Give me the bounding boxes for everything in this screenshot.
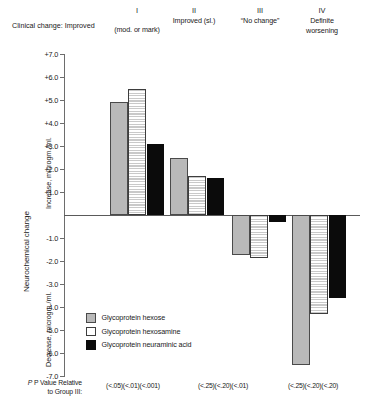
pvalue-cell-iv: (<.25)(<.20)(<.20): [266, 382, 360, 389]
y-tick-mark: [60, 146, 66, 147]
bar-group-ii-hexosamine: [188, 176, 206, 215]
y-tick-mark: [60, 353, 66, 354]
bar-group-i-neuraminic: [147, 144, 165, 215]
legend-swatch-hexosamine-icon: [86, 327, 96, 337]
y-tick-label: -2.0: [46, 257, 58, 266]
y-tick-label: +2.0: [44, 165, 58, 174]
bar-group-iii-hexosamine: [250, 215, 268, 258]
y-tick-mark: [60, 54, 66, 55]
y-tick-label: -1.0: [46, 234, 58, 243]
pvalue-title-line2: to Group III:: [8, 388, 82, 397]
y-tick-label: -6.0: [46, 349, 58, 358]
pvalue-cell-i: (<.05)(<.01)(<.001): [86, 382, 180, 389]
legend-label-hexosamine: Glycoprotein hexosamine: [102, 327, 181, 336]
legend-label-hexose: Glycoprotein hexose: [102, 313, 166, 322]
bar-group-ii-hexose: [170, 158, 188, 216]
y-tick-mark: [60, 77, 66, 78]
group-roman-iv: IV: [282, 6, 362, 16]
bar-group-i-hexosamine: [128, 89, 146, 216]
y-tick-label: +6.0: [44, 73, 58, 82]
y-tick-mark: [60, 123, 66, 124]
group-header-iv: IV Definite worsening: [282, 6, 362, 35]
group-label-iv-line2: worsening: [282, 26, 362, 35]
y-tick-label: +1.0: [44, 188, 58, 197]
y-tick-mark: [60, 284, 66, 285]
legend-item-hexosamine: Glycoprotein hexosamine: [86, 325, 266, 339]
y-tick-mark: [60, 376, 66, 377]
legend-swatch-neuraminic-icon: [86, 340, 96, 350]
y-tick-mark: [60, 192, 66, 193]
bar-group-ii-neuraminic: [207, 178, 225, 215]
legend-label-neuraminic: Glycoprotein neuraminic acid: [102, 340, 192, 349]
bar-group-iii-hexose: [232, 215, 250, 255]
y-tick-label: +3.0: [44, 142, 58, 151]
y-tick-label: +4.0: [44, 119, 58, 128]
y-tick-mark: [60, 100, 66, 101]
legend-item-hexose: Glycoprotein hexose: [86, 311, 266, 325]
y-tick-label: -3.0: [46, 280, 58, 289]
y-tick-mark: [60, 307, 66, 308]
group-label-iv-line1: Definite: [282, 16, 362, 25]
y-tick-label: +7.0: [44, 50, 58, 59]
pvalue-cell-ii: (<.25)(<.20)(<.01): [178, 382, 268, 389]
bar-group-iv-hexosamine: [310, 215, 328, 314]
y-tick-mark: [60, 330, 66, 331]
pvalue-row-title: P P Value Relative to Group III:: [8, 379, 82, 396]
legend-item-neuraminic: Glycoprotein neuraminic acid: [86, 338, 266, 352]
y-tick-label: -5.0: [46, 326, 58, 335]
y-tick-mark: [60, 169, 66, 170]
pvalue-title-line1: P Value Relative: [34, 379, 82, 386]
bar-group-iv-hexose: [292, 215, 310, 365]
y-tick-label: -4.0: [46, 303, 58, 312]
clinical-change-prefix: Clinical change: Improved: [12, 21, 95, 30]
legend: Glycoprotein hexose Glycoprotein hexosam…: [86, 311, 266, 352]
bar-group-i-hexose: [110, 102, 128, 215]
y-tick-mark: [60, 261, 66, 262]
legend-swatch-hexose-icon: [86, 313, 96, 323]
y-tick-mark: [60, 238, 66, 239]
chart-figure: Clinical change: Improved I (mod. or mar…: [0, 0, 367, 413]
y-tick-label: +5.0: [44, 96, 58, 105]
group-label-i: (mod. or mark): [92, 25, 182, 34]
group-header-row: Clinical change: Improved I (mod. or mar…: [0, 6, 367, 54]
y-axis-title: Neurochemical change: [22, 211, 31, 292]
bar-group-iii-neuraminic: [269, 215, 287, 222]
bar-group-iv-neuraminic: [329, 215, 347, 298]
